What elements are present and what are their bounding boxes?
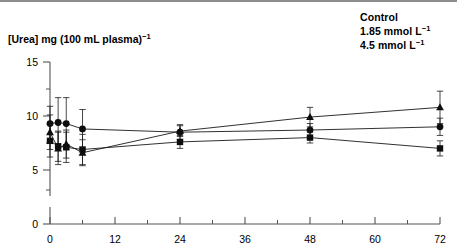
data-point-square	[307, 134, 313, 140]
data-point-circle	[437, 123, 444, 130]
y-axis: 15 10 5 0	[26, 56, 50, 230]
series-line	[50, 138, 440, 150]
plot-svg: 15 10 5 0 0 12 24 36 48 60	[0, 0, 457, 252]
y-tick-label-0: 0	[32, 218, 38, 230]
x-axis: 0 12 24 36 48 60 72	[47, 217, 446, 245]
data-point-circle	[79, 126, 86, 133]
x-tick-label-12: 12	[109, 233, 121, 245]
data-point-circle	[63, 120, 70, 127]
x-tick-label-0: 0	[47, 233, 53, 245]
data-point-triangle	[62, 140, 70, 147]
y-tick-label-5: 5	[32, 164, 38, 176]
series-square	[47, 125, 443, 165]
series-circle	[47, 98, 444, 150]
x-tick-label-60: 60	[369, 233, 381, 245]
data-point-square	[177, 139, 183, 145]
x-tick-label-36: 36	[239, 233, 251, 245]
data-point-triangle	[436, 103, 444, 110]
data-point-triangle	[46, 128, 54, 135]
y-tick-label-15: 15	[26, 56, 38, 68]
data-point-square	[437, 145, 443, 151]
y-tick-label-10: 10	[26, 110, 38, 122]
data-series-layer	[46, 91, 444, 166]
figure-container: Control 1.85 mmol L−1 4.5 mmol L−1 [Urea…	[0, 0, 457, 252]
x-tick-label-48: 48	[304, 233, 316, 245]
x-tick-label-24: 24	[174, 233, 186, 245]
x-tick-label-72: 72	[434, 233, 446, 245]
data-point-circle	[55, 119, 62, 126]
